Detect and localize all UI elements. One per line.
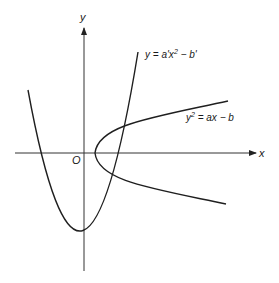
y-axis-label: y	[79, 11, 87, 23]
parabola-intersection-diagram: y x O y = a'x2 − b' y2 = ax − b	[0, 0, 279, 283]
upward-parabola-curve	[28, 52, 138, 231]
x-axis-label: x	[258, 147, 265, 159]
sideways-parabola-label: y2 = ax − b	[185, 111, 234, 123]
origin-label: O	[72, 154, 81, 166]
upward-parabola-label: y = a'x2 − b'	[144, 48, 198, 60]
